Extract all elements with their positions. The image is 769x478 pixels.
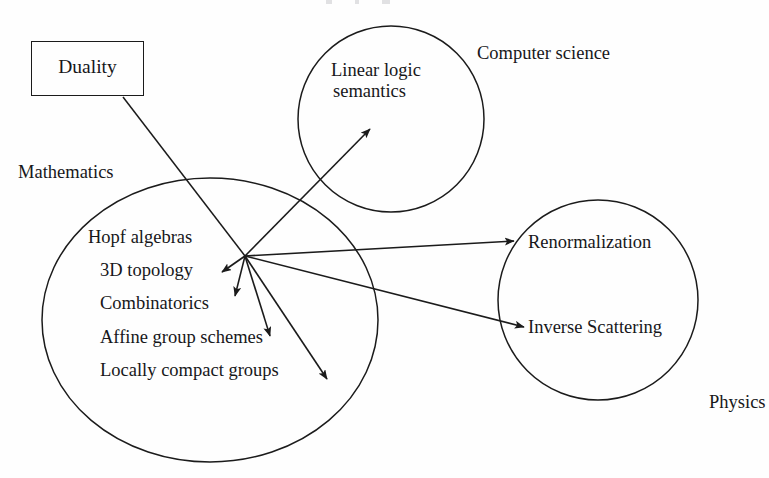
physics-circle [498,200,698,400]
duality-box: Duality [31,41,144,96]
math-item-affine-group-schemes: Affine group schemes [100,327,279,348]
math-item-3d-topology: 3D topology [100,260,279,281]
linear-logic-semantics-node: Linear logic semantics [331,60,421,101]
physics-domain-label: Physics [709,392,766,413]
diagram-canvas: Duality Mathematics Computer science Phy… [0,0,769,478]
linear-logic-line2: semantics [331,81,421,102]
mathematics-item-list: Hopf algebras 3D topology Combinatorics … [88,227,279,393]
edge-hub-to-renormalization [245,241,514,256]
math-item-locally-compact-groups: Locally compact groups [100,360,279,381]
duality-box-label: Duality [32,56,143,78]
math-item-hopf-algebras: Hopf algebras [88,227,279,248]
physics-item-inverse-scattering: Inverse Scattering [528,317,662,338]
edge-hub-to-inverse-scattering [245,256,524,327]
mathematics-domain-label: Mathematics [18,162,114,183]
physics-item-renormalization: Renormalization [528,232,651,253]
linear-logic-line1: Linear logic [331,60,421,80]
computer-science-domain-label: Computer science [477,43,610,64]
computer-science-circle [298,26,484,212]
math-item-combinatorics: Combinatorics [100,293,279,314]
